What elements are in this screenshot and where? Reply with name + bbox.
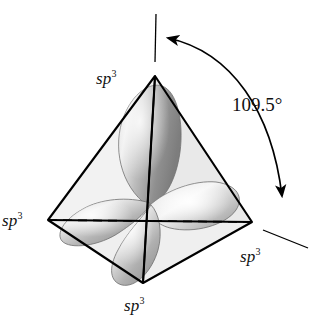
label-sp3-left-sup: 3 — [18, 210, 23, 221]
label-sp3-right-text: sp — [240, 247, 256, 266]
sp3-tetrahedron-diagram — [0, 0, 319, 328]
label-sp3-bottom-text: sp — [124, 296, 140, 315]
label-sp3-top-sup: 3 — [112, 68, 117, 79]
label-bond-angle: 109.5° — [232, 95, 282, 114]
angle-tick-bottom — [263, 230, 308, 248]
label-sp3-bottom: sp3 — [124, 297, 145, 314]
label-sp3-left-text: sp — [2, 211, 18, 230]
angle-tick-top — [155, 14, 156, 62]
label-sp3-top: sp3 — [96, 70, 117, 87]
label-sp3-right: sp3 — [240, 248, 261, 265]
label-sp3-left: sp3 — [2, 212, 23, 229]
label-sp3-bottom-sup: 3 — [140, 295, 145, 306]
label-sp3-top-text: sp — [96, 69, 112, 88]
label-sp3-right-sup: 3 — [256, 246, 261, 257]
